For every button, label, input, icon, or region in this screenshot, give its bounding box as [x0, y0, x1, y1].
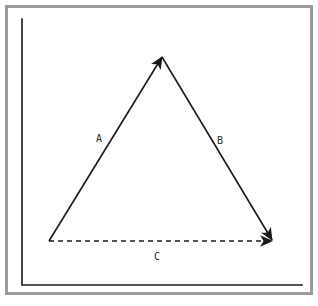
coordinate-axis-line — [22, 19, 302, 285]
vector-b-arrow — [162, 57, 272, 240]
vector-label-b: B — [217, 136, 223, 146]
vector-label-c: C — [154, 252, 160, 262]
vector-diagram-figure: A B C — [0, 0, 318, 306]
vector-label-a: A — [96, 134, 102, 144]
vector-a-arrow — [49, 57, 162, 241]
